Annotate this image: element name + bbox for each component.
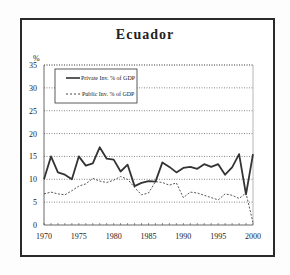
- x-tick-label: 2000: [245, 232, 261, 241]
- y-tick-label: 10: [29, 175, 37, 184]
- line-chart: 05101520253035%1970197519801985199019952…: [0, 0, 290, 275]
- x-tick-label: 1990: [175, 232, 191, 241]
- y-axis-unit: %: [33, 54, 40, 63]
- x-tick-label: 1970: [36, 232, 52, 241]
- y-tick-label: 0: [33, 221, 37, 230]
- y-tick-label: 25: [29, 107, 37, 116]
- legend-label-private: Private Inv. % of GDP: [81, 75, 136, 81]
- series-lines: [44, 147, 253, 222]
- legend-label-public: Public Inv. % of GDP: [82, 91, 135, 97]
- x-tick-label: 1995: [210, 232, 226, 241]
- public-investment-line: [44, 177, 253, 223]
- x-tick-label: 1975: [71, 232, 87, 241]
- private-investment-line: [44, 147, 253, 194]
- legend: Private Inv. % of GDP Public Inv. % of G…: [55, 69, 137, 103]
- y-tick-label: 15: [29, 152, 37, 161]
- x-tick-label: 1980: [106, 232, 122, 241]
- y-tick-label: 5: [33, 198, 37, 207]
- y-tick-label: 30: [29, 84, 37, 93]
- y-tick-label: 20: [29, 130, 37, 139]
- x-tick-label: 1985: [141, 232, 157, 241]
